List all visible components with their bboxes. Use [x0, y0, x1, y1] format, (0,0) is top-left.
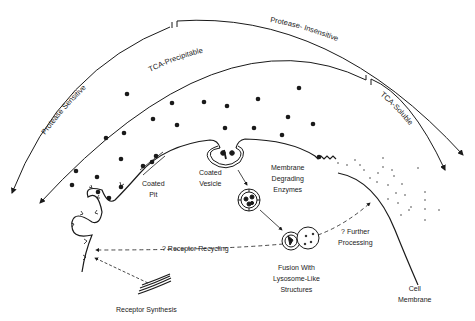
- label-protease-sensitive: Protease Sensitive: [39, 83, 87, 136]
- label-receptor-synthesis: Receptor Synthesis: [116, 304, 177, 315]
- label-coated-pit: CoatedPit: [142, 178, 165, 200]
- coated-vesicle-bud: [207, 146, 243, 168]
- label-membrane-degrading-enzymes: MembraneDegradingEnzymes: [271, 162, 304, 195]
- cell-membrane: [72, 139, 418, 285]
- receptor-synthesis-er: [138, 274, 171, 294]
- label-receptor-recycling: ? Receptor Recycling: [162, 243, 229, 254]
- label-tca-soluble: TCA-Soluble: [379, 90, 415, 127]
- inner-arc-tca: [40, 61, 445, 203]
- label-cell-membrane: CellMembrane: [398, 283, 431, 305]
- pathway-arrows: [95, 170, 370, 283]
- label-coated-vesicle: CoatedVesicle: [199, 167, 222, 189]
- label-tca-precipitable: TCA-Precipitable: [147, 46, 204, 74]
- label-fusion-lysosome: Fusion WithLysosome-LikeStructures: [273, 262, 320, 295]
- internal-vesicle: [238, 189, 260, 211]
- endocytosis-diagram: Protease Sensitive Protease- Insensitive…: [0, 0, 475, 321]
- label-protease-insensitive: Protease- Insensitive: [270, 15, 340, 43]
- lysosome-fusion: [282, 227, 319, 250]
- degraded-fragments: [337, 157, 439, 220]
- label-further-processing: ? FurtherProcessing: [338, 226, 373, 248]
